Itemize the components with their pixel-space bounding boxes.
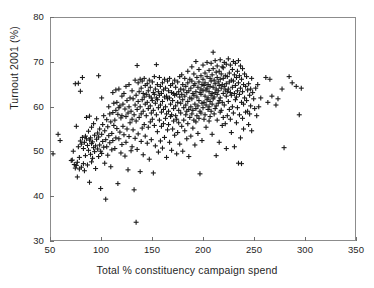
x-tick-label: 350 bbox=[336, 244, 374, 255]
y-axis-label: Turnout 2001 (%) bbox=[8, 26, 20, 110]
x-tick-label: 100 bbox=[81, 244, 121, 255]
y-tick-label: 30 bbox=[14, 235, 44, 246]
y-tick bbox=[50, 17, 54, 18]
plot-area bbox=[50, 17, 356, 241]
scatter-chart: 50100150200250300350 304050607080 Total … bbox=[0, 0, 374, 288]
data-points-layer bbox=[51, 18, 355, 240]
x-tick bbox=[152, 237, 153, 241]
x-tick bbox=[305, 237, 306, 241]
y-tick bbox=[50, 151, 54, 152]
x-tick bbox=[356, 237, 357, 241]
y-tick bbox=[50, 62, 54, 63]
x-tick bbox=[254, 237, 255, 241]
y-tick bbox=[50, 107, 54, 108]
x-tick bbox=[101, 237, 102, 241]
x-tick bbox=[203, 237, 204, 241]
y-tick bbox=[50, 241, 54, 242]
scatter-points-svg bbox=[51, 18, 355, 240]
y-axis-label-wrapper: Turnout 2001 (%) bbox=[6, 0, 22, 148]
x-axis-label: Total % constituency campaign spend bbox=[0, 264, 374, 276]
x-tick-label: 250 bbox=[234, 244, 274, 255]
y-tick bbox=[50, 196, 54, 197]
y-tick-label: 40 bbox=[14, 190, 44, 201]
x-tick-label: 300 bbox=[285, 244, 325, 255]
x-tick-label: 200 bbox=[183, 244, 223, 255]
x-tick-label: 150 bbox=[132, 244, 172, 255]
